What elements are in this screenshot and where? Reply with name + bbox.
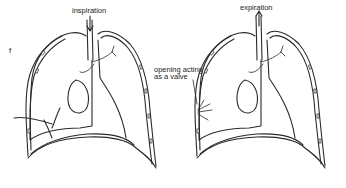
left-panel-ribs (28, 51, 152, 143)
left-panel-heart (68, 80, 89, 113)
valve-opening-icon (198, 100, 212, 120)
right-chest-panel (193, 11, 325, 168)
right-panel-right-lung (199, 33, 261, 140)
left-panel-diaphragm (28, 137, 156, 168)
left-panel-right-lung (30, 33, 92, 140)
left-chest-panel (14, 16, 156, 168)
left-panel-chest-wound-arrow (14, 117, 52, 138)
right-panel-heart (237, 80, 258, 113)
right-panel-ribs (197, 51, 321, 143)
left-panel-chest-wall-left-inner (30, 39, 65, 150)
right-panel-chest-wall-left-inner (199, 39, 234, 150)
lung-diagram (0, 0, 346, 188)
left-panel-left-lung-outer (98, 31, 156, 166)
right-panel-mediastinum-line (267, 40, 295, 138)
right-panel-diaphragm (197, 137, 325, 168)
left-panel-airflow-line (52, 108, 60, 128)
left-panel-mediastinum-line (98, 40, 126, 138)
right-panel-left-lung-outer (267, 31, 325, 166)
